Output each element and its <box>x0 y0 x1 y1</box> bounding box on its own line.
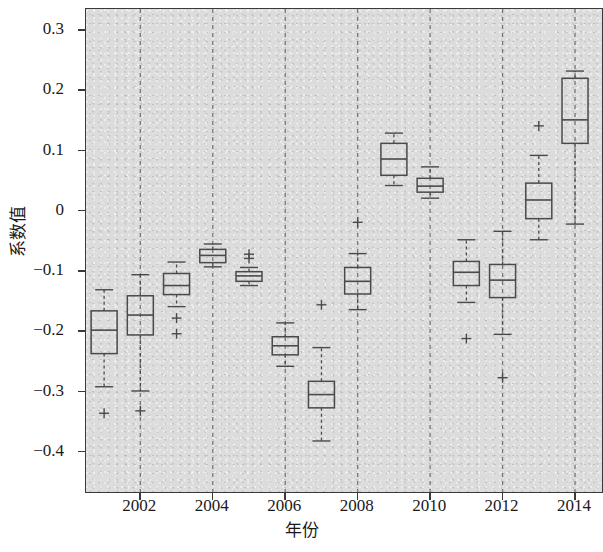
y-tick-mark-3 <box>78 210 86 212</box>
y-tick-label-6: −0.3 <box>0 382 76 399</box>
x-tick-mark-0 <box>139 493 141 500</box>
x-axis-title: 年份 <box>0 522 603 540</box>
box-rect-2014 <box>562 78 588 143</box>
y-tick-mark-7 <box>78 451 86 453</box>
box-2001 <box>91 290 117 419</box>
x-tick-mark-4 <box>429 493 431 500</box>
box-2004 <box>200 244 226 267</box>
box-2005 <box>236 249 262 285</box>
boxplot-figure: 0.30.20.10−0.1−0.2−0.3−0.4 系数值 年份 200220… <box>0 0 603 552</box>
y-tick-label-1: 0.2 <box>0 80 76 97</box>
box-rect-2003 <box>164 273 190 294</box>
y-tick-label-5: −0.2 <box>0 321 76 338</box>
box-rect-2013 <box>526 183 552 219</box>
box-2011 <box>453 240 479 344</box>
y-tick-label-0: 0.3 <box>0 20 76 37</box>
x-tick-mark-2 <box>284 493 286 500</box>
x-tick-mark-1 <box>212 493 214 500</box>
x-tick-mark-3 <box>357 493 359 500</box>
box-2003 <box>164 262 190 339</box>
box-2013 <box>526 121 552 240</box>
plot-area <box>85 8 603 493</box>
y-tick-mark-6 <box>78 391 86 393</box>
y-tick-label-2: 0.1 <box>0 141 76 158</box>
box-rect-2011 <box>453 261 479 285</box>
box-2007 <box>308 300 334 441</box>
x-tick-mark-6 <box>574 493 576 500</box>
y-tick-mark-5 <box>78 330 86 332</box>
box-2008 <box>345 217 371 309</box>
y-tick-label-7: −0.4 <box>0 442 76 459</box>
box-rect-2001 <box>91 311 117 354</box>
x-tick-mark-5 <box>502 493 504 500</box>
boxplot-canvas <box>86 9 603 493</box>
y-tick-mark-2 <box>78 150 86 152</box>
y-tick-mark-4 <box>78 270 86 272</box>
box-2010 <box>417 167 443 198</box>
y-tick-mark-0 <box>78 29 86 31</box>
box-2006 <box>272 323 298 366</box>
y-axis-title: 系数值 <box>10 176 28 286</box>
box-2009 <box>381 133 407 185</box>
y-tick-mark-1 <box>78 89 86 91</box>
